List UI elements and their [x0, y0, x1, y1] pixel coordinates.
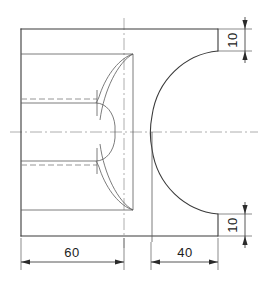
- dimension-40-group: 40: [151, 238, 218, 270]
- dim-40-arrow-left: [151, 259, 160, 264]
- dim-10-bottom-arrow-lower: [242, 236, 247, 245]
- dim-10-bottom-label: 10: [225, 217, 240, 232]
- dim-40-label: 40: [177, 245, 192, 260]
- outer-section-curve-lower: [100, 144, 133, 210]
- lower-inner-fillet-curve: [96, 161, 133, 210]
- dim-60-label: 60: [64, 245, 79, 260]
- dim-60-arrow-right: [115, 259, 124, 264]
- right-concave-arc: [151, 51, 219, 214]
- outer-section-curve-upper: [100, 54, 133, 120]
- dim-10-top-arrow-lower: [242, 51, 247, 60]
- internal-section-group: [21, 54, 152, 242]
- technical-drawing-canvas: 60 40 10 10: [0, 0, 267, 286]
- technical-drawing-svg: 60 40 10 10: [0, 0, 267, 286]
- dim-10-top-label: 10: [225, 32, 240, 47]
- dimension-10-bottom-group: 10: [219, 202, 252, 248]
- dim-10-bottom-arrow-upper: [242, 205, 247, 214]
- dimension-10-top-group: 10: [219, 17, 252, 63]
- dim-40-arrow-right: [209, 259, 218, 264]
- dim-10-top-arrow-upper: [242, 20, 247, 29]
- dim-60-arrow-left: [21, 259, 30, 264]
- center-lines-group: [10, 18, 258, 248]
- part-outline-group: [21, 29, 218, 236]
- upper-inner-fillet-curve: [96, 54, 133, 103]
- dimension-60-group: 60: [21, 238, 124, 270]
